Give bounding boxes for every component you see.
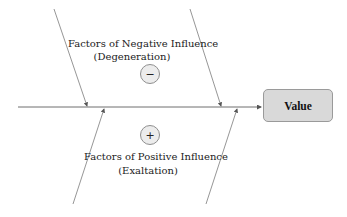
positive-factors-title: Factors of Positive Influence — [84, 150, 212, 163]
negative-factors-subtitle: (Degeneration) — [68, 50, 196, 63]
value-box: Value — [263, 89, 333, 122]
positive-factors-subtitle: (Exaltation) — [84, 164, 212, 177]
negative-factors-title: Factors of Negative Influence — [68, 37, 196, 50]
value-label: Value — [284, 100, 312, 112]
minus-sign-icon: − — [140, 64, 160, 84]
plus-sign-icon: + — [140, 125, 160, 145]
